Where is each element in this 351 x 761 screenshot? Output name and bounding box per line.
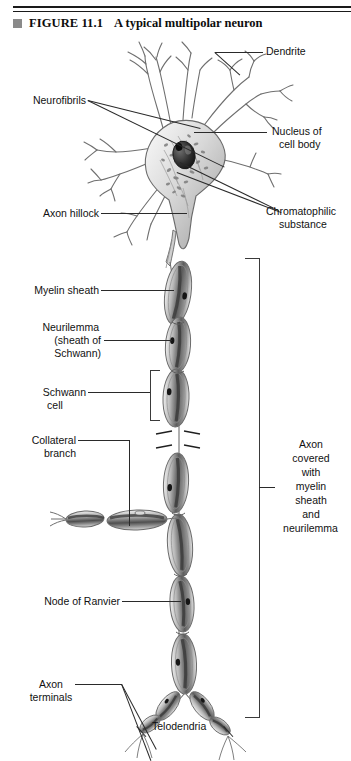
label-myelin-sheath: Myelin sheath [0,284,99,297]
label-chromatophilic-line1: Chromatophilic [266,205,336,218]
collateral-branch-shape [50,509,180,531]
label-axon-covered-line2: covered [276,452,346,465]
label-axon-covered-line5: sheath [276,494,346,507]
bracket-axon-covered [245,258,260,718]
label-schwann-line2: cell [27,399,83,412]
label-nucleus-line2: cell body [279,138,320,151]
label-axon-covered-line7: neurilemma [270,522,351,535]
leader-collateral-horizontal [78,440,130,441]
label-axon-covered-line6: and [276,508,346,521]
leader-axon-terminals-horizontal [75,684,122,685]
label-nucleus-line1: Nucleus of [272,125,322,138]
label-axon-terminals-line1: Axon [28,678,74,691]
leader-axon-covered [259,487,275,488]
label-axon-covered-line1: Axon [276,438,346,451]
label-collateral-line2: branch [0,447,76,460]
bracket-schwann-cell [150,370,160,421]
label-axon-covered-line4: myelin [276,480,346,493]
label-axon-terminals-line2: terminals [19,691,83,704]
leader-dendrite-horizontal [215,52,263,53]
label-telodendria: Telodendria [152,720,206,733]
label-chromatophilic-line2: substance [279,218,327,231]
label-collateral-line1: Collateral [0,434,76,447]
neuron-illustration [0,0,351,761]
label-node-of-ranvier: Node of Ranvier [0,595,120,608]
label-neurilemma-line2: (sheath of [0,334,101,347]
label-schwann-line1: Schwann [0,386,86,399]
label-neurilemma-line1: Neurilemma [0,321,99,334]
label-neurofibrils: Neurofibrils [0,94,86,107]
label-axon-hillock: Axon hillock [0,207,99,220]
label-neurilemma-line3: Schwann) [0,347,101,360]
label-dendrite: Dendrite [266,45,306,58]
leader-axon-hillock [101,213,187,214]
leader-neurilemma [104,340,172,341]
leader-collateral-vertical [129,440,130,526]
label-axon-covered-line3: with [276,466,346,479]
leader-schwann-cell [88,392,150,393]
figure-page: FIGURE 11.1 A typical multipolar neuron [0,0,351,761]
cell-body-group [84,42,293,249]
leader-myelin-sheath [101,290,174,291]
leader-nucleus [194,132,267,133]
leader-node-of-ranvier [122,601,181,602]
